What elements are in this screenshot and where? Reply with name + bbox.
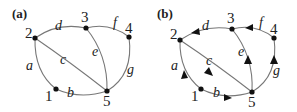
edge-label-e: e: [238, 44, 244, 59]
edge-label-c: c: [60, 52, 67, 67]
arrow-d-icon: [191, 28, 200, 35]
edge-label-b: b: [67, 85, 74, 100]
panel-b: (b) 2 3 4 1 5 a: [157, 6, 280, 110]
arrow-a-icon: [181, 70, 188, 79]
arrow-c-icon: [204, 67, 213, 76]
node-1: [53, 86, 58, 91]
node-label-2: 2: [25, 25, 33, 41]
arrow-e-icon: [244, 55, 252, 64]
edge-label-e: e: [92, 44, 98, 59]
graph-figure: (a) 2 3 4 1 5 a b c d e f g (b): [0, 0, 297, 112]
node-label-1: 1: [45, 88, 53, 104]
panel-a: (a) 2 3 4 1 5 a b c d e f g: [12, 6, 134, 109]
edge-b: [201, 89, 252, 96]
node-label-3: 3: [227, 10, 235, 26]
node-2: [177, 37, 182, 42]
edge-label-g: g: [273, 63, 280, 78]
node-label-4: 4: [125, 20, 133, 36]
node-label-4: 4: [270, 21, 278, 37]
node-3: [229, 26, 234, 31]
node-1: [198, 86, 203, 91]
node-2: [32, 35, 37, 40]
node-label-5: 5: [248, 94, 256, 110]
edge-f: [86, 26, 129, 37]
edge-label-b: b: [213, 85, 220, 100]
edge-label-g: g: [127, 62, 134, 77]
edge-g: [252, 38, 275, 92]
arrow-f-icon: [245, 24, 253, 31]
panel-a-title: (a): [12, 6, 27, 21]
edge-label-d: d: [55, 18, 63, 33]
edge-label-a: a: [171, 58, 178, 73]
edge-e: [86, 28, 107, 91]
edge-b: [56, 89, 107, 95]
node-label-1: 1: [191, 88, 199, 104]
node-3: [83, 25, 88, 30]
node-label-5: 5: [103, 93, 111, 109]
panel-b-title: (b): [157, 6, 173, 21]
edge-label-c: c: [206, 53, 213, 68]
edge-label-a: a: [26, 58, 33, 73]
edge-label-f: f: [113, 15, 119, 30]
node-label-3: 3: [81, 9, 89, 25]
arrow-b-icon: [224, 94, 232, 101]
node-label-2: 2: [170, 26, 178, 42]
edge-label-f: f: [259, 15, 265, 30]
edge-label-d: d: [202, 18, 210, 33]
